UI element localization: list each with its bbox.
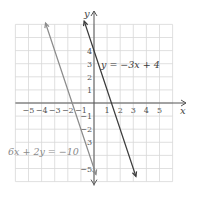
x-tick-label: 4 [144, 106, 149, 115]
x-tick-label: 3 [131, 106, 136, 115]
x-tick-label: −2 [62, 106, 74, 115]
x-tick-label: −5 [23, 106, 35, 115]
x-tick-label: −4 [36, 106, 48, 115]
y-tick-label: 4 [87, 47, 92, 56]
x-tick-label: −3 [49, 106, 61, 115]
x-axis-label: x [180, 105, 186, 116]
line2-equation-label: 6x + 2y = −10 [8, 146, 79, 157]
y-tick-label: −5 [80, 165, 92, 174]
y-tick-label: 3 [87, 138, 92, 147]
x-tick-label: 2 [118, 106, 123, 115]
y-tick-label: 3 [87, 60, 92, 69]
x-tick-label: 5 [157, 106, 162, 115]
y-tick-label: −1 [80, 112, 92, 121]
coordinate-plane: −5−4−3−2−1123454321−1−23−5 y x y = −3x +… [0, 0, 198, 197]
line-1 [84, 21, 136, 176]
x-tick-label: 1 [105, 106, 110, 115]
y-tick-label: 1 [87, 86, 92, 95]
y-axis-label: y [83, 8, 90, 19]
y-tick-label: 2 [87, 73, 92, 82]
line1-equation-label: y = −3x + 4 [100, 59, 160, 70]
